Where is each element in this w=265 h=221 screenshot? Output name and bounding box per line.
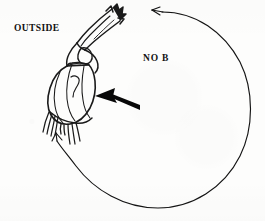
organism-rostrum (77, 9, 120, 50)
figure-canvas: OUTSIDE NO B (0, 0, 265, 221)
organism-legs-middle (68, 123, 80, 144)
organism-appendage-stubs (60, 124, 65, 135)
bold-pointer-arrow (95, 88, 140, 110)
flow-arrowhead-top (152, 7, 163, 15)
organism-body-lines (54, 64, 90, 123)
organism-tail-fan (106, 4, 126, 24)
organism-joint-segment (67, 43, 98, 73)
label-no-b: NO B (143, 54, 169, 64)
label-outside: OUTSIDE (14, 24, 60, 34)
